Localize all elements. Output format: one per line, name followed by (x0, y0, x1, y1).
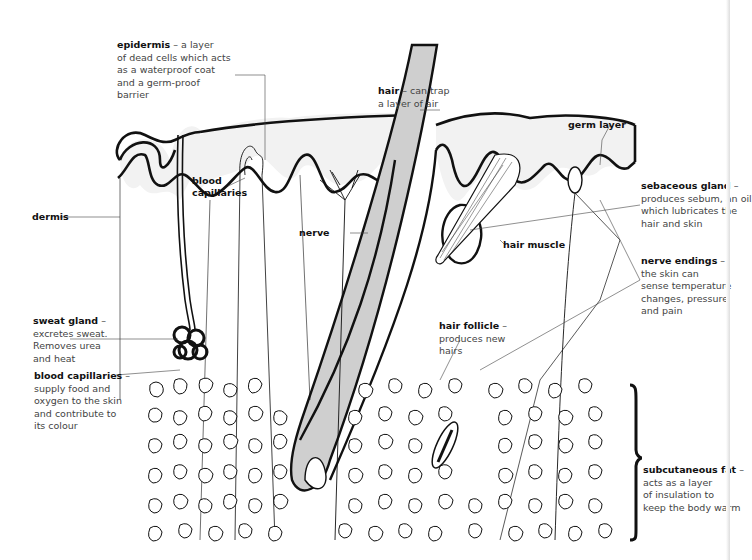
label-nerve-endings-title: nerve endings (641, 255, 717, 266)
label-nerve-endings-desc-0: – (720, 255, 725, 266)
label-hair-follicle-title: hair follicle (439, 320, 499, 331)
label-germ-layer: germ layer (568, 119, 626, 130)
label-epidermis-desc-0: – a layer (173, 39, 213, 50)
label-subcutaneous-fat-title: subcutaneous fat (643, 464, 736, 475)
label-blood-capillaries-side-desc-3: and contribute to (34, 408, 116, 419)
label-nerve-endings-desc-4: and pain (641, 305, 682, 316)
label-subcutaneous-fat-desc-1: acts as a layer (643, 477, 712, 488)
label-sweat-gland-desc-1: excretes sweat. (33, 328, 108, 339)
subcutaneous-fat-bracket (630, 385, 642, 540)
label-sebaceous-gland-desc-3: hair and skin (641, 218, 702, 229)
label-epidermis-desc-1: of dead cells which acts (117, 52, 231, 63)
label-blood-capillaries-top-0: blood (192, 175, 222, 186)
label-epidermis: epidermis – a layer of dead cells which … (117, 39, 231, 102)
label-hair-title: hair (378, 85, 399, 96)
label-epidermis-desc-2: as a waterproof coat (117, 64, 215, 75)
label-blood-capillaries-side-title: blood capillaries (34, 370, 122, 381)
label-hair-desc-1: a layer of air (378, 98, 438, 109)
label-subcutaneous-fat-desc-2: of insulation to (643, 489, 714, 500)
label-hair-follicle: hair follicle – produces new hairs (439, 320, 507, 358)
label-blood-capillaries-side-desc-0: – (125, 370, 130, 381)
label-nerve: nerve (299, 227, 330, 238)
page-edge-shadow (726, 0, 730, 560)
label-epidermis-desc-4: barrier (117, 89, 149, 100)
nerve-ending-receptor (568, 167, 582, 193)
label-blood-capillaries-top-1: capillaries (192, 187, 247, 198)
label-sweat-gland-desc-2: Removes urea (33, 340, 101, 351)
label-sebaceous-gland-desc-0: – (734, 180, 739, 191)
label-hair-follicle-desc-1: produces new (439, 333, 505, 344)
label-sweat-gland-desc-3: and heat (33, 353, 75, 364)
label-sebaceous-gland-desc-1: produces sebum, an oil (641, 193, 752, 204)
label-hair-desc-0: – can trap (402, 85, 449, 96)
label-nerve-endings-desc-1: the skin can (641, 268, 699, 279)
label-dermis: dermis (32, 211, 69, 222)
label-sebaceous-gland: sebaceous gland – produces sebum, an oil… (641, 180, 752, 230)
label-sweat-gland-title: sweat gland (33, 315, 98, 326)
label-nerve-endings-desc-3: changes, pressure (641, 293, 728, 304)
label-hair-follicle-desc-2: hairs (439, 345, 462, 356)
sweat-gland-coil (174, 327, 207, 359)
label-epidermis-desc-3: and a germ-proof (117, 77, 200, 88)
label-subcutaneous-fat-desc-0: – (739, 464, 744, 475)
label-sweat-gland: sweat gland – excretes sweat. Removes ur… (33, 315, 108, 365)
label-hair-muscle: hair muscle (503, 239, 565, 250)
fat-cells (149, 378, 612, 541)
label-nerve-endings-desc-2: sense temperature (641, 280, 731, 291)
label-blood-capillaries-side-desc-2: oxygen to the skin (34, 395, 122, 406)
label-hair-follicle-desc-0: – (502, 320, 507, 331)
label-sweat-gland-desc-0: – (101, 315, 106, 326)
label-blood-capillaries-side-desc-1: supply food and (34, 383, 110, 394)
label-sebaceous-gland-title: sebaceous gland (641, 180, 731, 191)
label-blood-capillaries-top: blood capillaries (192, 175, 247, 199)
label-blood-capillaries-side: blood capillaries – supply food and oxyg… (34, 370, 130, 433)
label-blood-capillaries-side-desc-4: its colour (34, 420, 78, 431)
label-hair: hair – can trap a layer of air (378, 85, 450, 110)
label-nerve-endings: nerve endings – the skin can sense tempe… (641, 255, 731, 318)
label-sebaceous-gland-desc-2: which lubricates the (641, 205, 737, 216)
label-epidermis-title: epidermis (117, 39, 170, 50)
